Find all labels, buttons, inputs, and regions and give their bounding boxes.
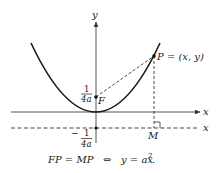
parabola-diagram: y x x 1 4a F P = (x, y) M − 1 4a FP = MP… xyxy=(0,0,219,173)
equation-iff: ⇔ xyxy=(103,154,112,165)
directrix-intercept-point xyxy=(94,126,97,129)
point-p-label: P = (x, y) xyxy=(156,51,204,62)
focus-value-numerator: 1 xyxy=(84,84,89,94)
point-p xyxy=(152,54,156,58)
right-angle-marker xyxy=(154,122,160,128)
focus-label: F xyxy=(97,95,106,106)
directrix-label: x xyxy=(203,122,209,133)
focus-to-point-segment xyxy=(96,56,154,97)
foot-m-label: M xyxy=(147,130,159,141)
equation-period: . xyxy=(152,154,155,165)
x-axis-label: x xyxy=(203,106,209,117)
directrix-value-sign: − xyxy=(71,128,79,138)
directrix-value-denominator: 4a xyxy=(80,139,91,149)
equation-left: FP = MP xyxy=(47,154,94,165)
directrix-value-numerator: 1 xyxy=(84,128,89,138)
focus-value-denominator: 4a xyxy=(80,94,91,104)
y-axis-label: y xyxy=(91,9,98,20)
